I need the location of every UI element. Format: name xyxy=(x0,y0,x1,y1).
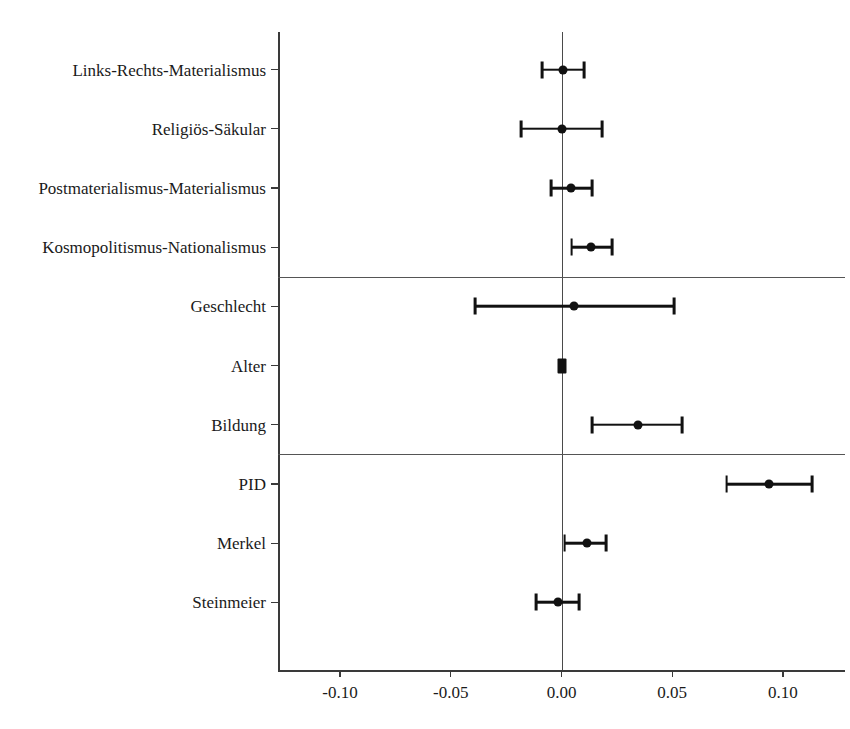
y-tick-0 xyxy=(271,69,278,70)
ci-cap-high-9 xyxy=(578,594,581,611)
y-axis-line xyxy=(278,32,280,670)
y-tick-1 xyxy=(271,128,278,129)
y-tick-6 xyxy=(271,424,278,425)
point-estimate-9 xyxy=(554,598,563,607)
panel-separator-2 xyxy=(278,454,845,455)
ci-cap-low-8 xyxy=(563,535,566,552)
point-estimate-8 xyxy=(583,539,592,548)
y-tick-3 xyxy=(271,247,278,248)
x-tick-0 xyxy=(339,670,340,677)
y-axis-label-pid: PID xyxy=(239,476,266,493)
y-tick-9 xyxy=(271,602,278,603)
ci-cap-low-2 xyxy=(550,180,553,197)
ci-cap-low-7 xyxy=(725,476,728,493)
y-axis-label-postmaterialismus-materialismus: Postmaterialismus-Materialismus xyxy=(38,180,266,197)
ci-cap-low-1 xyxy=(520,120,523,137)
x-tick-2 xyxy=(561,670,562,677)
point-estimate-3 xyxy=(587,243,596,252)
point-estimate-6 xyxy=(634,420,643,429)
x-tick-4 xyxy=(782,670,783,677)
y-axis-label-links-rechts-materialismus: Links-Rechts-Materialismus xyxy=(72,61,266,78)
y-tick-2 xyxy=(271,187,278,188)
ci-cap-low-4 xyxy=(474,298,477,315)
point-estimate-7 xyxy=(764,480,773,489)
ci-cap-low-9 xyxy=(534,594,537,611)
y-axis-label-alter: Alter xyxy=(231,357,266,374)
ci-cap-high-4 xyxy=(673,298,676,315)
y-axis-label-religi-s-s-kular: Religiös-Säkular xyxy=(152,120,266,137)
y-tick-8 xyxy=(271,543,278,544)
ci-cap-high-6 xyxy=(681,416,684,433)
x-tick-label-2: 0.00 xyxy=(547,684,577,701)
y-axis-label-steinmeier: Steinmeier xyxy=(192,594,266,611)
ci-cap-high-1 xyxy=(601,120,604,137)
y-axis-label-kosmopolitismus-nationalismus: Kosmopolitismus-Nationalismus xyxy=(42,239,266,256)
x-tick-label-0: -0.10 xyxy=(322,684,357,701)
x-tick-3 xyxy=(672,670,673,677)
ci-cap-high-8 xyxy=(605,535,608,552)
point-estimate-4 xyxy=(569,302,578,311)
panel-separator-1 xyxy=(278,277,845,278)
plot-area: -0.10-0.050.000.050.10Links-Rechts-Mater… xyxy=(0,0,850,729)
y-tick-5 xyxy=(271,365,278,366)
x-tick-1 xyxy=(450,670,451,677)
point-estimate-1 xyxy=(557,124,566,133)
x-tick-label-4: 0.10 xyxy=(768,684,798,701)
ci-cap-low-3 xyxy=(570,239,573,256)
y-tick-4 xyxy=(271,306,278,307)
point-estimate-2 xyxy=(567,184,576,193)
x-tick-label-3: 0.05 xyxy=(657,684,687,701)
ci-cap-high-3 xyxy=(611,239,614,256)
ci-cap-high-2 xyxy=(590,180,593,197)
y-axis-label-geschlecht: Geschlecht xyxy=(190,298,266,315)
coefficient-plot-figure: -0.10-0.050.000.050.10Links-Rechts-Mater… xyxy=(0,0,850,729)
ci-cap-low-0 xyxy=(541,61,544,78)
point-estimate-5 xyxy=(557,358,566,373)
x-tick-label-1: -0.05 xyxy=(433,684,468,701)
ci-cap-high-7 xyxy=(810,476,813,493)
point-estimate-0 xyxy=(558,65,567,74)
y-tick-7 xyxy=(271,483,278,484)
y-axis-label-merkel: Merkel xyxy=(217,535,266,552)
ci-cap-low-6 xyxy=(591,416,594,433)
y-axis-label-bildung: Bildung xyxy=(211,416,266,433)
ci-cap-high-0 xyxy=(582,61,585,78)
